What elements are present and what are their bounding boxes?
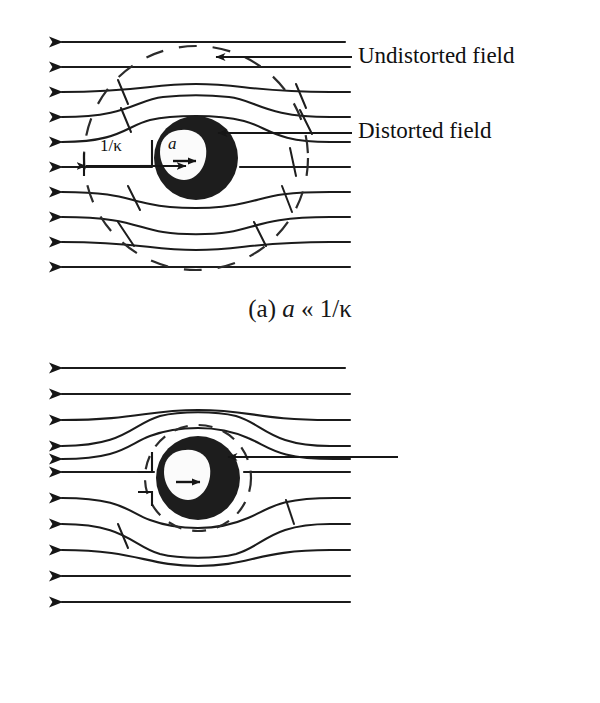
panel-b: 1/κ a Distorted field (b) a » 1/κ [0,345,600,703]
panel-b-screening-measure [138,452,152,506]
label-distorted-field-a: Distorted field [358,118,492,144]
figure-root: 1/κ a Undistorted field Distorted field … [0,0,600,703]
panel-a-radius-label: a [168,134,177,154]
panel-a: 1/κ a Undistorted field Distorted field … [0,0,600,345]
caption-panel-a: (a) a « 1/κ [0,295,600,323]
panel-a-screening-length-label: 1/κ [100,136,122,156]
panel-b-diagram [0,345,600,703]
label-undistorted-field: Undistorted field [358,43,515,69]
panel-a-leaders [216,57,352,133]
